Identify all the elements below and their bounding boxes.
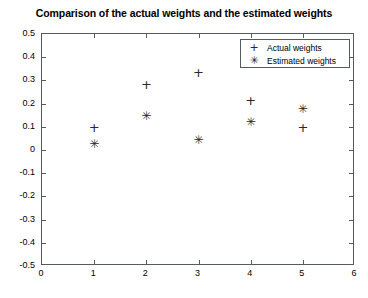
x-tick-label: 6 — [351, 268, 356, 278]
x-tick-mark — [303, 260, 304, 264]
y-tick-mark — [349, 243, 353, 244]
chart-legend: + Actual weights ✳ Estimated weights — [240, 39, 350, 68]
legend-label-estimated-weights: Estimated weights — [267, 56, 336, 66]
legend-label-actual-weights: Actual weights — [267, 43, 322, 53]
y-tick-mark — [349, 220, 353, 221]
y-tick-mark — [42, 220, 46, 221]
plus-marker-icon: + — [241, 42, 267, 53]
x-tick-mark — [199, 34, 200, 38]
data-point-estimated: ✳ — [141, 110, 151, 122]
y-tick-mark — [42, 196, 46, 197]
figure-canvas: Comparison of the actual weights and the… — [0, 0, 368, 298]
y-tick-mark — [42, 150, 46, 151]
x-tick-label: 5 — [299, 268, 304, 278]
y-tick-mark — [349, 104, 353, 105]
y-tick-mark — [42, 57, 46, 58]
x-tick-mark — [303, 34, 304, 38]
x-tick-label: 0 — [38, 268, 43, 278]
data-point-actual: + — [193, 66, 204, 79]
x-tick-label: 1 — [91, 268, 96, 278]
data-point-actual: + — [89, 120, 100, 133]
y-tick-mark — [349, 173, 353, 174]
x-tick-mark — [94, 34, 95, 38]
data-point-actual: + — [245, 94, 256, 107]
data-point-estimated: ✳ — [298, 103, 308, 115]
y-tick-mark — [42, 104, 46, 105]
data-point-actual: + — [141, 77, 152, 90]
x-tick-mark — [251, 260, 252, 264]
data-point-estimated: ✳ — [246, 116, 256, 128]
x-tick-mark — [146, 34, 147, 38]
y-tick-mark — [349, 80, 353, 81]
x-tick-mark — [199, 260, 200, 264]
data-point-estimated: ✳ — [193, 134, 203, 146]
legend-entry-estimated-weights: ✳ Estimated weights — [241, 54, 351, 67]
x-tick-label: 3 — [195, 268, 200, 278]
y-tick-mark — [42, 243, 46, 244]
data-point-actual: + — [297, 121, 308, 134]
x-tick-mark — [146, 260, 147, 264]
y-tick-mark — [349, 196, 353, 197]
x-tick-label: 2 — [143, 268, 148, 278]
y-tick-mark — [42, 173, 46, 174]
x-tick-label: 4 — [247, 268, 252, 278]
y-tick-mark — [42, 127, 46, 128]
x-tick-mark — [94, 260, 95, 264]
legend-entry-actual-weights: + Actual weights — [241, 41, 351, 54]
asterisk-marker-icon: ✳ — [241, 55, 267, 66]
x-tick-mark — [251, 34, 252, 38]
y-tick-mark — [349, 127, 353, 128]
y-tick-mark — [349, 150, 353, 151]
y-tick-mark — [42, 80, 46, 81]
data-point-estimated: ✳ — [89, 138, 99, 150]
